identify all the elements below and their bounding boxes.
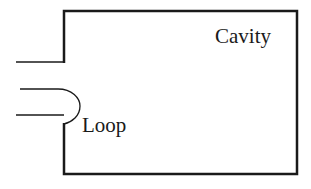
coupling-loop <box>20 89 80 124</box>
loop-label: Loop <box>82 113 126 137</box>
cavity-loop-diagram: Cavity Loop <box>0 0 311 189</box>
cavity-label: Cavity <box>215 24 271 48</box>
